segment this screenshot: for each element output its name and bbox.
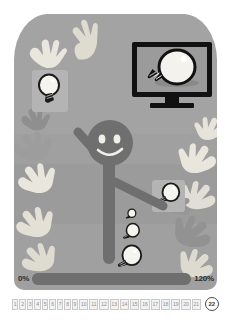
monitor-with-lightbulb <box>132 42 212 110</box>
page-number-strip[interactable]: 1 2 3 4 5 6 7 8 9 10 11 12 13 14 15 16 1… <box>12 296 219 312</box>
slide-canvas: 0% 120% <box>14 14 217 290</box>
page-cell[interactable]: 5 <box>42 299 48 310</box>
stick-figure-person <box>69 110 179 270</box>
page-cell[interactable]: 2 <box>19 299 25 310</box>
hand-left-mid <box>14 160 63 199</box>
page-cell[interactable]: 12 <box>99 299 108 310</box>
page-cell[interactable]: 15 <box>130 299 139 310</box>
page-cell[interactable]: 16 <box>140 299 149 310</box>
page-cell[interactable]: 18 <box>161 299 170 310</box>
slide-root: 0% 120% 1 2 3 4 5 6 7 8 9 10 11 12 13 14… <box>0 0 231 320</box>
page-cell[interactable]: 11 <box>89 299 98 310</box>
page-cell[interactable]: 20 <box>181 299 190 310</box>
progress-fill <box>32 273 191 285</box>
monitor-base <box>150 103 194 108</box>
page-cell[interactable]: 10 <box>79 299 88 310</box>
lightbulb-icon <box>137 47 207 92</box>
page-cell[interactable]: 1 <box>12 299 18 310</box>
page-cell[interactable]: 3 <box>27 299 33 310</box>
page-cell[interactable]: 9 <box>72 299 78 310</box>
page-cell[interactable]: 21 <box>192 299 201 310</box>
page-cell[interactable]: 4 <box>34 299 40 310</box>
page-current-indicator[interactable]: 22 <box>205 297 219 311</box>
page-cell[interactable]: 8 <box>64 299 70 310</box>
progress-track[interactable] <box>32 273 191 285</box>
page-cell[interactable]: 6 <box>49 299 55 310</box>
progress-end-label: 120% <box>194 274 214 283</box>
page-cell[interactable]: 7 <box>57 299 63 310</box>
page-cell[interactable]: 14 <box>120 299 129 310</box>
hand-left-lower <box>14 204 61 241</box>
hand-top-middle <box>66 16 106 62</box>
bulb-held-upper-left <box>35 72 65 106</box>
progress-start-label: 0% <box>18 274 29 283</box>
page-cell[interactable]: 17 <box>151 299 160 310</box>
progress-bar-row[interactable]: 0% 120% <box>18 270 214 287</box>
page-cell[interactable]: 13 <box>110 299 119 310</box>
page-cell[interactable]: 19 <box>171 299 180 310</box>
monitor-screen <box>137 47 207 92</box>
